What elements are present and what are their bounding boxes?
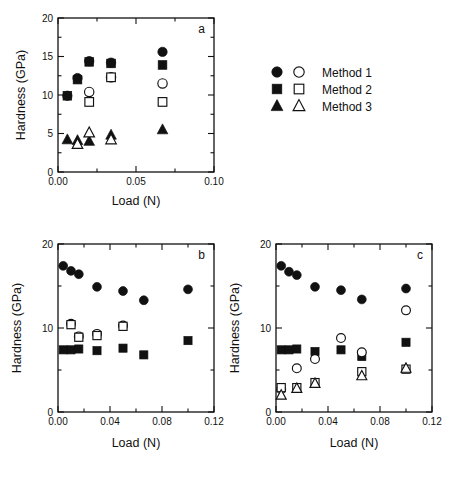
filled-square-marker: [67, 346, 75, 354]
legend-label: Method 3: [322, 100, 372, 114]
filled-circle-marker: [74, 270, 83, 279]
filled-square-marker: [93, 347, 101, 355]
filled-circle-marker: [59, 261, 68, 270]
open-square-marker: [93, 331, 101, 339]
legend-svg: Method 1Method 2Method 3: [268, 62, 418, 117]
open-circle-marker: [158, 79, 167, 88]
method-legend: Method 1Method 2Method 3: [268, 62, 418, 117]
filled-square-marker: [285, 346, 293, 354]
filled-square-marker: [85, 58, 94, 67]
x-tick-label: 0.00: [266, 416, 286, 427]
y-tick-label: 20: [42, 13, 54, 24]
y-tick-label: 5: [47, 128, 53, 139]
y-axis-label: Hardness (GPa): [228, 283, 242, 373]
series-filled-circle: [59, 261, 193, 304]
filled-circle-marker: [272, 67, 282, 77]
y-tick-label: 20: [42, 239, 54, 250]
y-axis-label: Hardness (GPa): [10, 283, 24, 373]
plot-frame: [58, 244, 214, 412]
x-tick-label: 0.04: [100, 416, 120, 427]
filled-square-marker: [73, 75, 82, 84]
panel-letter-a: a: [198, 22, 205, 36]
panel-a-chart: 0.000.050.1005101520Load (N)Hardness (GP…: [14, 8, 236, 208]
panel-letter-b: b: [198, 248, 205, 262]
filled-square-marker: [59, 346, 67, 354]
legend-label: Method 2: [322, 83, 372, 97]
filled-circle-marker: [277, 261, 286, 270]
filled-square-marker: [293, 345, 301, 353]
filled-square-marker: [272, 84, 282, 94]
filled-triangle-marker: [157, 124, 168, 134]
x-axis-label: Load (N): [112, 436, 161, 450]
filled-square-marker: [402, 338, 410, 346]
filled-square-marker: [63, 91, 72, 100]
open-circle-marker: [294, 67, 304, 77]
open-circle-marker: [337, 334, 346, 343]
open-circle-marker: [85, 87, 94, 96]
figure-root: 0.000.050.1005101520Load (N)Hardness (GP…: [0, 0, 462, 479]
x-tick-label: 0.05: [126, 176, 146, 187]
y-tick-label: 0: [47, 167, 53, 178]
x-axis-label: Load (N): [330, 436, 379, 450]
open-square-marker: [75, 333, 83, 341]
open-triangle-marker: [293, 100, 305, 111]
legend-label: Method 1: [322, 66, 372, 80]
filled-circle-marker: [158, 47, 167, 56]
x-tick-label: 0.04: [318, 416, 338, 427]
filled-square-marker: [337, 346, 345, 354]
open-circle-marker: [357, 348, 366, 357]
open-circle-marker: [292, 364, 301, 373]
series-open-square: [85, 73, 167, 106]
y-tick-label: 15: [42, 51, 54, 62]
x-tick-label: 0.00: [48, 176, 68, 187]
open-triangle-marker: [84, 127, 95, 137]
filled-square-marker: [184, 337, 192, 345]
filled-triangle-marker: [62, 134, 73, 144]
panel-b-chart: 0.000.040.080.1201020Load (N)Hardness (G…: [10, 232, 228, 450]
filled-circle-marker: [357, 295, 366, 304]
filled-circle-marker: [139, 296, 148, 305]
y-tick-label: 10: [260, 323, 272, 334]
panel-c-svg: 0.000.040.080.1201020Load (N)Hardness (G…: [228, 232, 446, 450]
filled-square-marker: [107, 59, 116, 68]
filled-square-marker: [158, 61, 167, 70]
filled-circle-marker: [93, 282, 102, 291]
open-square-marker: [85, 98, 94, 107]
filled-circle-marker: [311, 282, 320, 291]
y-tick-label: 0: [265, 407, 271, 418]
x-tick-label: 0.00: [48, 416, 68, 427]
filled-circle-marker: [292, 271, 301, 280]
x-tick-label: 0.12: [204, 416, 224, 427]
x-tick-label: 0.12: [422, 416, 442, 427]
x-tick-label: 0.10: [204, 176, 224, 187]
panel-letter-c: c: [417, 248, 423, 262]
filled-circle-marker: [402, 284, 411, 293]
filled-square-marker: [75, 345, 83, 353]
y-tick-label: 20: [260, 239, 272, 250]
y-tick-label: 10: [42, 90, 54, 101]
open-square-marker: [294, 84, 304, 94]
y-tick-label: 0: [47, 407, 53, 418]
open-square-marker: [107, 73, 116, 82]
open-circle-marker: [402, 306, 411, 315]
panel-a-svg: 0.000.050.1005101520Load (N)Hardness (GP…: [14, 8, 236, 208]
filled-triangle-marker: [271, 100, 283, 111]
open-square-marker: [67, 321, 75, 329]
panel-b-svg: 0.000.040.080.1201020Load (N)Hardness (G…: [10, 232, 228, 450]
filled-square-marker: [277, 346, 285, 354]
x-tick-label: 0.08: [370, 416, 390, 427]
x-tick-label: 0.08: [152, 416, 172, 427]
filled-square-marker: [119, 344, 127, 352]
filled-circle-marker: [119, 287, 128, 296]
filled-circle-marker: [337, 286, 346, 295]
filled-circle-marker: [184, 285, 193, 294]
series-filled-circle: [277, 261, 411, 303]
panel-c-chart: 0.000.040.080.1201020Load (N)Hardness (G…: [228, 232, 446, 450]
filled-square-marker: [140, 351, 148, 359]
y-axis-label: Hardness (GPa): [14, 50, 28, 140]
open-square-marker: [119, 322, 127, 330]
open-square-marker: [158, 98, 167, 107]
y-tick-label: 10: [42, 323, 54, 334]
open-circle-marker: [311, 355, 320, 364]
series-open-circle: [85, 73, 168, 97]
